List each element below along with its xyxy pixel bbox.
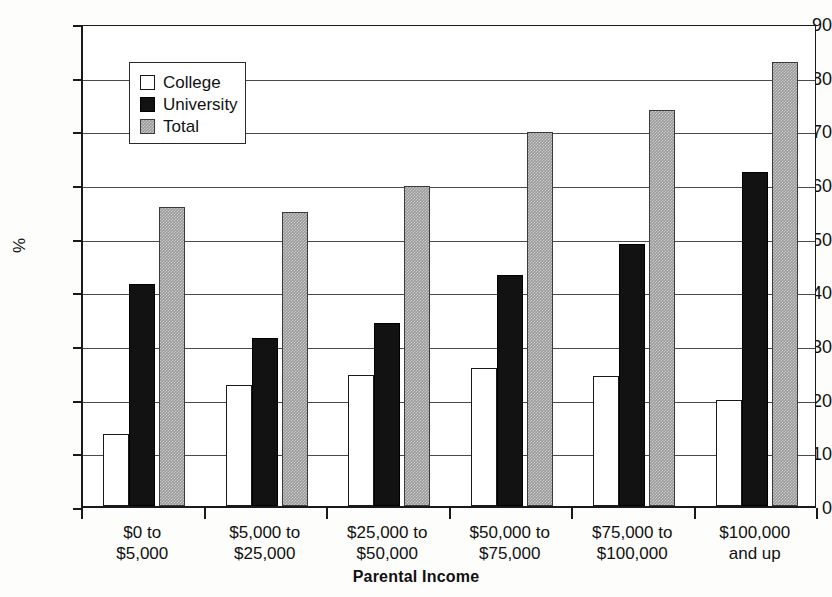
bar-total <box>649 110 675 506</box>
x-tick-mark <box>449 508 451 519</box>
gridline <box>83 294 815 295</box>
x-category-label-line: $0 to <box>81 522 204 543</box>
x-category-label-line: $75,000 to <box>571 522 694 543</box>
y-tick-mark <box>73 347 81 349</box>
x-tick-mark <box>571 508 573 519</box>
bar-college <box>103 434 129 506</box>
bar-university <box>619 244 645 506</box>
legend-item-university: University <box>140 93 245 115</box>
legend-swatch-college <box>140 75 155 90</box>
bar-university <box>252 338 278 507</box>
bar-college <box>226 385 252 506</box>
x-tick-mark <box>816 508 818 519</box>
gridline <box>83 402 815 403</box>
x-category-label-line: $50,000 <box>326 543 449 564</box>
x-tick-mark <box>81 508 83 519</box>
bar-college <box>716 400 742 506</box>
bar-total <box>772 62 798 506</box>
y-tick-mark <box>73 25 81 27</box>
x-category-label-line: $100,000 <box>571 543 694 564</box>
bar-university <box>497 275 523 506</box>
x-tick-mark <box>204 508 206 519</box>
y-tick-mark <box>73 186 81 188</box>
y-tick-mark <box>73 79 81 81</box>
bar-chart: 0102030405060708090 % $0 to$5,000$5,000 … <box>0 0 832 597</box>
x-axis-title: Parental Income <box>0 568 832 586</box>
y-tick-mark <box>73 293 81 295</box>
legend-label: University <box>163 96 238 113</box>
x-category-label-line: $5,000 <box>81 543 204 564</box>
bar-university <box>374 323 400 506</box>
x-category-label-line: $75,000 <box>449 543 572 564</box>
x-category-label-line: $50,000 to <box>449 522 572 543</box>
legend-label: College <box>163 74 221 91</box>
bar-total <box>282 212 308 506</box>
x-tick-mark <box>326 508 328 519</box>
gridline <box>83 348 815 349</box>
x-category-label-line: $25,000 to <box>326 522 449 543</box>
bar-college <box>348 375 374 506</box>
bar-university <box>129 284 155 506</box>
legend-swatch-university <box>140 97 155 112</box>
y-tick-mark <box>73 240 81 242</box>
y-axis-title: % <box>10 238 30 253</box>
y-tick-mark <box>73 454 81 456</box>
x-category-label-line: $25,000 <box>204 543 327 564</box>
x-category-label-line: $5,000 to <box>204 522 327 543</box>
x-category-label: $25,000 to$50,000 <box>326 522 449 564</box>
bar-university <box>742 172 768 506</box>
legend-item-college: College <box>140 71 245 93</box>
bar-total <box>404 186 430 506</box>
legend-label: Total <box>163 118 199 135</box>
bar-total <box>159 207 185 506</box>
legend-swatch-total <box>140 119 155 134</box>
y-tick-mark <box>73 401 81 403</box>
x-tick-mark <box>694 508 696 519</box>
x-category-label-line: $100,000 <box>694 522 817 543</box>
gridline <box>83 241 815 242</box>
chart-legend: CollegeUniversityTotal <box>129 62 246 144</box>
y-tick-mark <box>73 132 81 134</box>
gridline <box>83 455 815 456</box>
x-category-label: $0 to$5,000 <box>81 522 204 564</box>
y-tick-mark <box>73 508 81 510</box>
x-category-label: $5,000 to$25,000 <box>204 522 327 564</box>
bar-college <box>593 376 619 506</box>
x-category-label: $100,000and up <box>694 522 817 564</box>
legend-item-total: Total <box>140 115 245 137</box>
x-category-label: $50,000 to$75,000 <box>449 522 572 564</box>
x-category-label-line: and up <box>694 543 817 564</box>
x-category-label: $75,000 to$100,000 <box>571 522 694 564</box>
bar-college <box>471 368 497 506</box>
gridline <box>83 187 815 188</box>
bar-total <box>527 132 553 506</box>
